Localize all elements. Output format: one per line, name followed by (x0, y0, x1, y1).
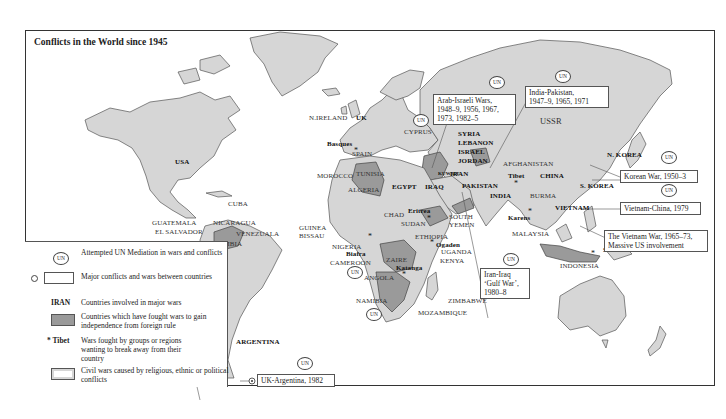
legend-text: Attempted UN Mediation in wars and confl… (81, 248, 231, 257)
conflict-line: Iran-Iraq (484, 270, 526, 279)
label-south-yemen: SOUTH YEMEN (449, 213, 481, 229)
conflict-line: 1947–9, 1965, 1971 (529, 97, 605, 106)
label-argentina: ARGENTINA (236, 338, 280, 346)
conflict-box-korean-war: Korean War, 1950–3 (620, 170, 698, 183)
label-cyprus: CYPRUS (404, 128, 432, 136)
label-biafra: Biafra (346, 250, 366, 258)
label-uk: UK (356, 114, 367, 122)
new-zealand-landmass (648, 326, 666, 356)
label-ogaden: Ogaden (436, 241, 460, 249)
un-badge-icon: UN (489, 76, 505, 89)
label-egypt: EGYPT (392, 183, 417, 191)
label-n-ireland: N.IRELAND (309, 114, 347, 122)
conflict-box-india-pakistan: India-Pakistan, 1947–9, 1965, 1971 (525, 86, 609, 108)
conflict-line: Massive US involvement (608, 241, 704, 250)
conflict-line: 1973, 1982–5 (437, 114, 512, 123)
label-angola: ANGOLA (364, 274, 394, 282)
separatist-marker-icon: * (591, 250, 595, 258)
conflict-line: Vietnam-China, 1979 (624, 204, 697, 213)
label-s-korea: S. KOREA (580, 182, 614, 190)
separatist-sample-label: Tibet (53, 336, 70, 345)
label-namibia: NAMIBIA (356, 297, 387, 305)
conflict-box-vietnam-china: Vietnam-China, 1979 (620, 202, 701, 215)
iceland-landmass (322, 88, 340, 96)
north-america-landmass (85, 92, 240, 218)
label-karens: Karens (508, 214, 530, 222)
separatist-marker-icon: * (402, 271, 406, 279)
conflict-line: ‘Gulf War’, (484, 279, 526, 288)
label-china: CHINA (540, 172, 564, 180)
legend-item-un-mediation: UN Attempted UN Mediation in wars and co… (25, 248, 225, 268)
label-lebanon: LEBANON (458, 139, 493, 147)
separatist-marker-icon: * (514, 180, 518, 188)
separatist-marker-icon: * (427, 215, 431, 223)
conflict-box-arab-israeli: Arab-Israeli Wars, 1948–9, 1956, 1967, 1… (433, 94, 516, 125)
label-kuwait: KUWAIT (438, 170, 459, 178)
conflict-line: UK-Argentina, 1982 (261, 376, 331, 385)
label-pakistan: PAKISTAN (462, 182, 498, 190)
conflict-line: India-Pakistan, (529, 88, 605, 97)
label-tunisia: TUNISIA (356, 170, 385, 178)
label-malaysia: MALAYSIA (512, 230, 549, 238)
label-syria: SYRIA (458, 130, 480, 138)
conflict-box-swatch (44, 272, 74, 284)
label-algeria: ALGERIA (348, 186, 379, 194)
conflict-line: 1948–9, 1956, 1967, (437, 105, 512, 114)
label-nicaragua: NICARAGUA (213, 219, 256, 227)
label-morocco: MOROCCO (317, 172, 353, 180)
legend-item-independence: Countries which have fought wars to gain… (25, 312, 225, 332)
un-badge-icon: UN (661, 151, 677, 164)
un-badge-icon: UN (347, 266, 363, 279)
label-el-salvador: EL SALVADOR (155, 228, 203, 236)
label-burma: BURMA (530, 192, 556, 200)
label-usa: USA (175, 158, 189, 166)
label-afghanistan: AFGHANISTAN (503, 160, 553, 168)
legend-text: Countries which have fought wars to gain… (81, 312, 231, 330)
legend-panel: UN Attempted UN Mediation in wars and co… (25, 241, 228, 387)
un-badge-icon: UN (661, 184, 677, 197)
label-katanga: Katanga (396, 264, 422, 272)
label-sudan: SUDAN (401, 220, 426, 228)
label-venezuala: VENEZUALA (236, 230, 279, 238)
australia-landmass (558, 276, 626, 336)
legend-text: Major conflicts and wars between countri… (81, 272, 231, 281)
legend-item-separatist: * Tibet Wars fought by groups or regions… (25, 336, 225, 364)
label-iraq: IRAQ (425, 183, 444, 191)
label-cuba: CUBA (228, 200, 248, 208)
label-ussr: USSR (540, 117, 562, 125)
label-guinea-bissau: GUINEA BISSAU (299, 224, 329, 240)
conflict-line: Arab-Israeli Wars, (437, 96, 512, 105)
un-badge-icon: UN (366, 308, 382, 321)
conflict-line: Korean War, 1950–3 (624, 172, 694, 181)
un-badge-icon: UN (413, 114, 429, 127)
label-zaire: ZAIRE (386, 256, 407, 264)
conflict-line: The Vietnam War, 1965–73, (608, 232, 704, 241)
label-chad: CHAD (384, 211, 404, 219)
un-badge-icon: UN (53, 252, 69, 265)
label-basques: Basques (327, 140, 352, 148)
legend-text: Countries involved in major wars (81, 298, 231, 307)
scandinavia-landmass (380, 70, 424, 100)
separatist-marker-icon: * (47, 336, 51, 345)
legend-item-major-conflicts: Major conflicts and wars between countri… (25, 272, 225, 292)
pin-icon (31, 275, 38, 282)
label-n-korea: N. KOREA (607, 151, 642, 159)
separatist-marker-icon: * (528, 208, 532, 216)
un-badge-icon: UN (297, 357, 313, 370)
legend-text: Wars fought by groups or regions wanting… (81, 336, 199, 363)
label-israel: ISRAEL (458, 148, 485, 156)
conflict-box-iran-iraq: Iran-Iraq ‘Gulf War’, 1980–8 (480, 268, 530, 299)
label-vietnam: VIETNAM (555, 204, 590, 212)
separatist-marker-icon: * (368, 233, 372, 241)
greenland-landmass (250, 32, 338, 96)
conflict-line: 1980–8 (484, 288, 526, 297)
civil-war-swatch (51, 368, 75, 380)
label-uganda: UGANDA (441, 248, 472, 256)
conflict-box-uk-argentina: UK-Argentina, 1982 (257, 374, 335, 387)
bold-country-sample: IRAN (51, 298, 70, 307)
separatist-sample: * Tibet (47, 336, 69, 345)
madagascar-landmass (426, 272, 438, 300)
label-indonesia: INDONESIA (560, 262, 599, 270)
label-guatemala: GUATEMALA (152, 219, 196, 227)
map-title: Conflicts in the World since 1945 (34, 37, 168, 47)
